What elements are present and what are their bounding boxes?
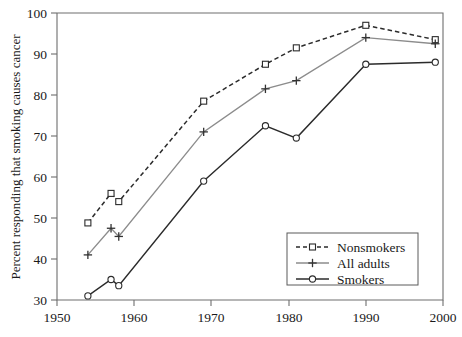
data-point-open-square: [201, 98, 207, 104]
circle-marker-icon: [363, 61, 369, 67]
circle-marker-icon: [108, 276, 114, 282]
chart-legend: NonsmokersAll adultsSmokers: [287, 233, 418, 287]
y-tick-label: 90: [34, 47, 48, 62]
series-nonsmokers: [85, 22, 438, 226]
circle-marker-icon: [201, 178, 207, 184]
x-axis-ticks: [57, 300, 443, 306]
square-marker-icon: [310, 244, 316, 250]
data-point-open-circle: [108, 276, 114, 282]
circle-marker-icon: [116, 283, 122, 289]
y-tick-label: 50: [34, 211, 48, 226]
y-axis-tick-labels: 30 40 50 60 70 80 90 100: [27, 6, 48, 308]
y-tick-label: 80: [34, 88, 48, 103]
data-point-open-square: [310, 244, 316, 250]
chart-container: 30 40 50 60 70 80 90 100 Percent respond…: [0, 0, 462, 337]
x-tick-label: 1960: [121, 310, 148, 325]
square-marker-icon: [85, 220, 91, 226]
y-tick-label: 100: [27, 6, 48, 21]
y-tick-label: 70: [34, 129, 48, 144]
data-point-open-circle: [262, 123, 268, 129]
x-tick-label: 2000: [430, 310, 457, 325]
y-tick-label: 40: [34, 252, 48, 267]
data-point-open-circle: [432, 59, 438, 65]
data-point-open-square: [363, 22, 369, 28]
data-point-open-square: [293, 45, 299, 51]
data-point-open-square: [85, 220, 91, 226]
circle-marker-icon: [309, 276, 315, 282]
data-point-plus: [261, 85, 269, 93]
square-marker-icon: [108, 190, 114, 196]
square-marker-icon: [363, 22, 369, 28]
x-tick-label: 1990: [353, 310, 380, 325]
x-tick-label: 1970: [198, 310, 225, 325]
square-marker-icon: [293, 45, 299, 51]
y-axis-ticks: [51, 13, 57, 300]
data-point-open-circle: [363, 61, 369, 67]
legend-label: All adults: [337, 256, 390, 271]
y-axis-title: Percent responding that smoking causes c…: [8, 34, 23, 280]
data-point-open-square: [108, 190, 114, 196]
data-point-open-circle: [293, 135, 299, 141]
data-point-plus: [292, 76, 300, 84]
circle-marker-icon: [85, 293, 91, 299]
series-all-adults: [84, 33, 440, 259]
data-point-open-circle: [85, 293, 91, 299]
data-point-open-square: [116, 199, 122, 205]
x-axis-tick-labels: 1950 1960 1970 1980 1990 2000: [44, 310, 457, 325]
legend-label: Nonsmokers: [337, 240, 405, 255]
data-point-open-circle: [201, 178, 207, 184]
circle-marker-icon: [293, 135, 299, 141]
y-tick-label: 30: [34, 293, 48, 308]
data-point-open-circle: [309, 276, 315, 282]
circle-marker-icon: [262, 123, 268, 129]
series-line: [88, 25, 435, 223]
data-point-plus: [362, 33, 370, 41]
x-tick-label: 1950: [44, 310, 71, 325]
line-chart: 30 40 50 60 70 80 90 100 Percent respond…: [0, 0, 462, 337]
data-point-open-square: [262, 61, 268, 67]
legend-label: Smokers: [337, 272, 384, 287]
data-point-open-circle: [116, 283, 122, 289]
circle-marker-icon: [432, 59, 438, 65]
y-tick-label: 60: [34, 170, 48, 185]
x-tick-label: 1980: [276, 310, 303, 325]
square-marker-icon: [116, 199, 122, 205]
square-marker-icon: [262, 61, 268, 67]
series-line: [88, 38, 435, 255]
square-marker-icon: [201, 98, 207, 104]
